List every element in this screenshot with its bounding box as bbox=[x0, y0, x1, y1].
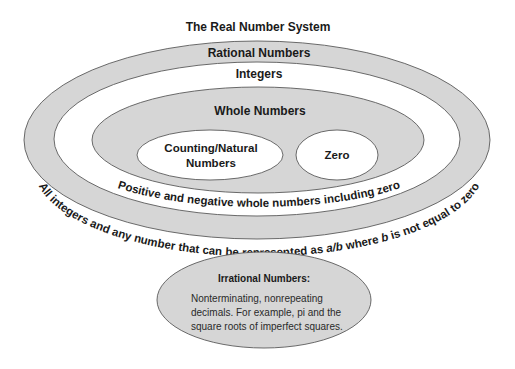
rational-desc-fraction: a/b bbox=[325, 240, 343, 254]
counting-numbers-region bbox=[137, 130, 283, 180]
integers-label: Integers bbox=[236, 67, 283, 81]
irrational-description-line2: decimals. For example, pi and the bbox=[191, 307, 342, 318]
irrational-numbers-label: Irrational Numbers: bbox=[218, 273, 310, 284]
rational-numbers-label: Rational Numbers bbox=[208, 46, 311, 60]
real-number-system-diagram: The Real Number System Rational Numbers … bbox=[0, 0, 515, 369]
rational-desc-part-2: where bbox=[342, 232, 383, 252]
zero-label: Zero bbox=[325, 149, 350, 161]
whole-numbers-label: Whole Numbers bbox=[214, 104, 306, 118]
irrational-description-line3: square roots of imperfect squares. bbox=[191, 321, 343, 332]
diagram-title: The Real Number System bbox=[186, 20, 331, 34]
irrational-description-line1: Nonterminating, nonrepeating bbox=[191, 293, 323, 304]
counting-numbers-label-line2: Numbers bbox=[186, 157, 236, 169]
counting-numbers-label-line1: Counting/Natural bbox=[164, 142, 257, 154]
